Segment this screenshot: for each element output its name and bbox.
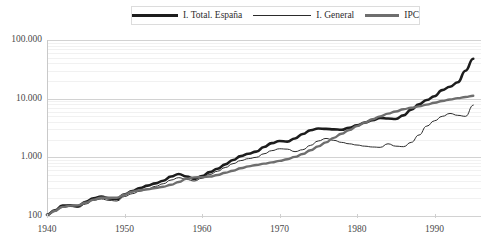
series-line-i-total-espa-a xyxy=(47,59,473,215)
y-tick-label: 10.000 xyxy=(0,94,48,104)
x-tick-mark xyxy=(280,214,281,218)
x-tick-mark xyxy=(435,214,436,218)
x-tick-mark xyxy=(357,214,358,218)
y-tick-label: 1.000 xyxy=(0,152,48,162)
x-tick-label: 1980 xyxy=(348,225,367,235)
x-tick-label: 1950 xyxy=(115,225,134,235)
x-axis-line xyxy=(47,216,481,217)
series-layer xyxy=(47,40,481,216)
y-tick-label: 100.000 xyxy=(0,35,48,45)
x-tick-label: 1940 xyxy=(38,225,57,235)
x-tick-mark xyxy=(202,214,203,218)
x-tick-label: 1970 xyxy=(270,225,289,235)
x-tick-mark xyxy=(125,214,126,218)
x-tick-label: 1990 xyxy=(425,225,444,235)
x-tick-mark xyxy=(47,214,48,218)
chart-container: I. Total. España I. General IPC 100.0001… xyxy=(0,0,493,251)
plot-area xyxy=(47,40,481,216)
x-tick-label: 1960 xyxy=(193,225,212,235)
y-tick-label: 100 xyxy=(0,211,48,221)
